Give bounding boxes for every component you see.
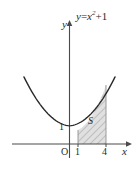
equation-tail: +1 bbox=[96, 10, 108, 22]
tick-label-y-1: 1 bbox=[59, 122, 64, 132]
x-axis-label: x bbox=[122, 146, 127, 157]
origin-label: O bbox=[61, 147, 68, 157]
y-axis-arrow bbox=[67, 20, 73, 26]
tick-label-x-4: 4 bbox=[102, 147, 107, 157]
math-figure: y=x2+1 y x O 1 4 1 S bbox=[0, 0, 136, 175]
x-axis bbox=[12, 141, 132, 147]
y-axis-label: y bbox=[62, 19, 67, 30]
curve-equation-label: y=x2+1 bbox=[76, 10, 107, 22]
tick-label-x-1: 1 bbox=[75, 147, 80, 157]
shaded-region-label: S bbox=[88, 116, 93, 126]
y-axis bbox=[67, 20, 73, 158]
